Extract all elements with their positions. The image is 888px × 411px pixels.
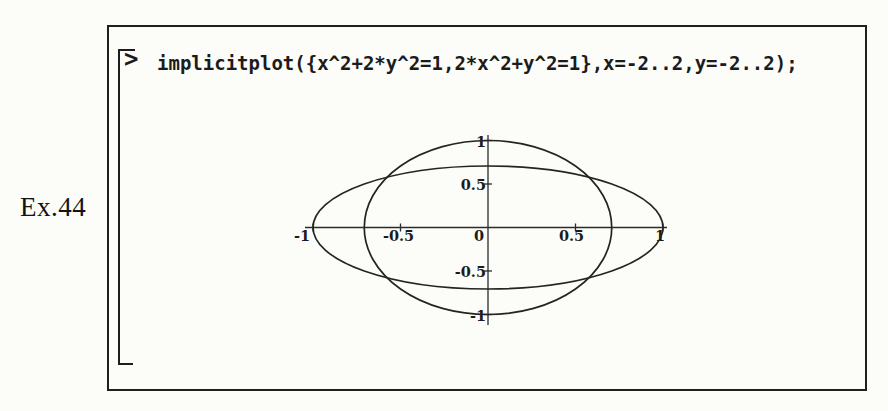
x-tick-label: -0.5 — [383, 227, 414, 244]
y-tick-label: 0.5 — [461, 176, 486, 193]
x-tick-label: -1 — [294, 227, 310, 244]
y-tick-label: -0.5 — [455, 263, 486, 280]
maple-command-text: implicitplot({x^2+2*y^2=1,2*x^2+y^2=1},x… — [157, 53, 798, 73]
x-tick-label: 0 — [474, 227, 484, 244]
maple-prompt-icon: > — [124, 46, 138, 71]
example-label: Ex.44 — [20, 192, 86, 223]
bracket-bottom-line — [118, 363, 133, 365]
implicitplot-chart: -1-0.500.5110.5-0.5-1 — [273, 120, 703, 345]
bracket-vertical-line — [118, 49, 120, 365]
figure-frame: > implicitplot({x^2+2*y^2=1,2*x^2+y^2=1}… — [107, 25, 867, 391]
x-tick-label: 0.5 — [559, 227, 584, 244]
